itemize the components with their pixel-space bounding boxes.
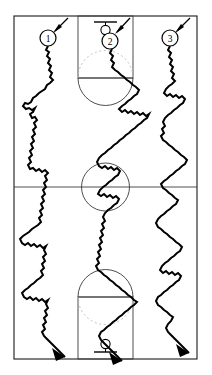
marker-2-label: 2 (108, 37, 113, 47)
marker-3: 3 (162, 30, 178, 46)
marker-2: 2 (102, 33, 118, 49)
marker-1: 1 (40, 30, 56, 46)
trajectory-path-2 (96, 49, 149, 361)
trajectory-path-1 (20, 46, 65, 357)
court-outline (14, 16, 197, 359)
bottom-free-throw-arc-dashed (78, 297, 133, 324)
marker-1-label: 1 (46, 34, 51, 44)
trajectory-path-3 (156, 46, 189, 353)
top-free-throw-arc-dashed (78, 51, 133, 78)
court-diagram: 1 2 3 (0, 0, 212, 375)
marker-3-label: 3 (168, 34, 173, 44)
top-free-throw-arc-solid (78, 78, 133, 105)
basketball-court-figure: 1 2 3 (0, 0, 212, 375)
